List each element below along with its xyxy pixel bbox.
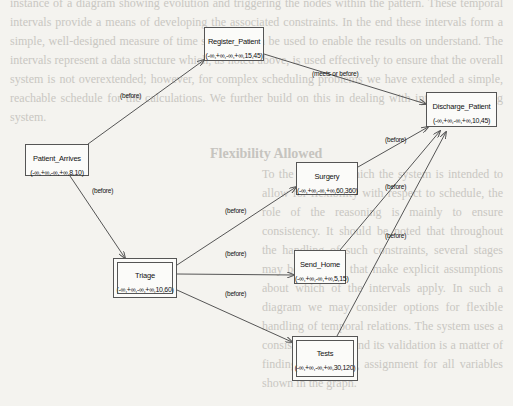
node-interval: (-∞,+∞,-∞,+∞,8,10)	[26, 169, 88, 176]
edge-surgery-to-discharge-patient	[358, 127, 428, 167]
edge-patient-arrives-to-register-patient	[88, 60, 204, 144]
node-tests[interactable]: Tests(-∞,+∞,-∞,+∞,30,120)	[292, 336, 358, 381]
edge-label: (before)	[120, 92, 141, 99]
edge-label: (before)	[92, 187, 113, 194]
node-name: Tests	[293, 349, 357, 358]
node-interval: (-∞,+∞,-∞,+∞,60,360)	[297, 187, 357, 194]
edge-label: (before)	[225, 250, 246, 257]
node-name: Register_Patient	[205, 37, 263, 46]
node-triage[interactable]: Triage(-∞,+∞,-∞,+∞,10,60)	[113, 258, 177, 298]
node-interval: (-∞,+∞,-∞,+∞,10,60)	[114, 286, 176, 293]
edge-triage-to-send-home	[177, 274, 294, 275]
edge-triage-to-tests	[177, 290, 292, 342]
node-register-patient[interactable]: Register_Patient(-∞,+∞,-∞,+∞,15,45)	[204, 27, 264, 61]
edge-register-patient-to-discharge-patient	[264, 54, 426, 104]
edge-label: (before)	[225, 207, 246, 214]
node-interval: (-∞,+∞,-∞,+∞,30,120)	[293, 364, 357, 371]
node-patient-arrives[interactable]: Patient_Arrives(-∞,+∞,-∞,+∞,8,10)	[25, 144, 89, 176]
edge-label: (before)	[225, 290, 246, 297]
node-interval: (-∞,+∞,-∞,+∞,15,45)	[205, 52, 263, 59]
node-name: Surgery	[297, 172, 357, 181]
node-surgery[interactable]: Surgery(-∞,+∞,-∞,+∞,60,360)	[296, 162, 358, 195]
edge-label: (meets or before)	[312, 70, 358, 77]
node-name: Discharge_Patient	[427, 102, 496, 111]
node-interval: (-∞,+∞,-∞,+∞,10,45)	[427, 117, 496, 124]
node-name: Patient_Arrives	[26, 154, 88, 163]
edge-label: (before)	[385, 183, 406, 190]
node-name: Send_Home	[295, 260, 345, 269]
node-discharge-patient[interactable]: Discharge_Patient(-∞,+∞,-∞,+∞,10,45)	[426, 92, 497, 127]
edge-label: (before)	[385, 136, 406, 143]
node-name: Triage	[114, 271, 176, 280]
edge-label: (before)	[385, 232, 406, 239]
node-interval: (-∞,+∞,-∞,+∞,5,15)	[295, 275, 345, 282]
node-send-home[interactable]: Send_Home(-∞,+∞,-∞,+∞,5,15)	[294, 250, 346, 284]
